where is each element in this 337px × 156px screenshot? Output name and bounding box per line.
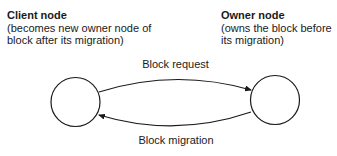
block-migration-label: Block migration	[138, 134, 213, 146]
diagram-canvas: Block request Block migration	[0, 0, 337, 156]
client-node-circle	[51, 78, 100, 127]
block-request-label: Block request	[142, 58, 209, 70]
block-migration-arrow	[99, 112, 251, 126]
block-request-arrow	[99, 79, 251, 92]
owner-node-circle	[251, 76, 300, 125]
